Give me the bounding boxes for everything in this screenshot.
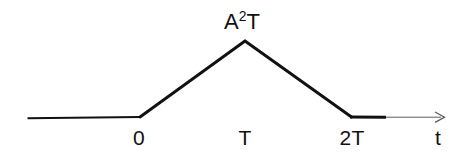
baseline-left-segment	[28, 117, 141, 118]
xtick-label-t: T	[238, 127, 251, 148]
peak-amplitude-base: A	[224, 9, 239, 34]
xtick-label-2t: 2T	[340, 127, 365, 148]
triangular-waveform-figure: A2T 0 T 2T t	[0, 0, 468, 155]
falling-edge-segment	[245, 41, 352, 117]
xtick-label-zero: 0	[133, 127, 145, 148]
x-axis-name-label: t	[435, 127, 441, 148]
peak-amplitude-label: A2T	[224, 11, 260, 33]
rising-edge-segment	[140, 41, 245, 117]
peak-amplitude-suffix: T	[247, 9, 260, 34]
